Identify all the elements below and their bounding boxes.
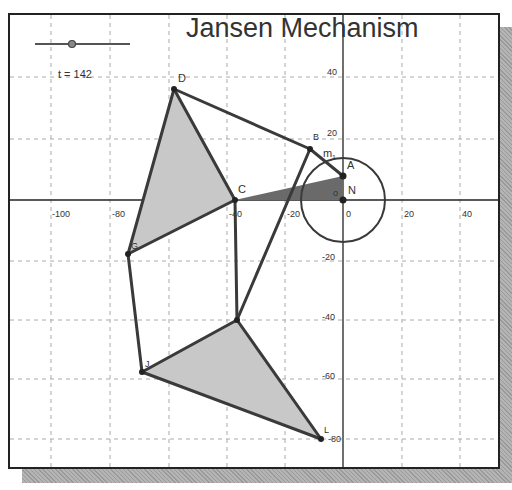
- svg-text:-80: -80: [328, 434, 341, 444]
- mechanism-canvas[interactable]: -100 -80 -60 -40 -20 0 20 40 40 20 -20 -…: [10, 15, 498, 467]
- svg-text:C: C: [238, 183, 246, 195]
- svg-text:-20: -20: [287, 209, 300, 219]
- svg-text:20: 20: [404, 209, 414, 219]
- slider-handle[interactable]: [69, 41, 76, 48]
- point-g[interactable]: [125, 251, 131, 257]
- svg-text:-60: -60: [322, 371, 335, 381]
- point-l[interactable]: [318, 436, 324, 442]
- point-c[interactable]: [232, 197, 238, 203]
- graphics-view[interactable]: -100 -80 -60 -40 -20 0 20 40 40 20 -20 -…: [8, 13, 500, 469]
- svg-text:G: G: [131, 241, 138, 251]
- svg-text:L: L: [324, 425, 329, 435]
- point-d[interactable]: [171, 86, 177, 92]
- svg-text:0: 0: [346, 209, 351, 219]
- t-slider[interactable]: [35, 41, 130, 48]
- point-a[interactable]: [340, 173, 347, 180]
- svg-text:N: N: [348, 184, 356, 196]
- svg-text:20: 20: [327, 128, 337, 138]
- svg-text:-40: -40: [322, 312, 335, 322]
- diagram-title: Jansen Mechanism: [186, 13, 419, 44]
- svg-text:-100: -100: [52, 209, 70, 219]
- svg-text:o: o: [333, 188, 338, 198]
- point-n[interactable]: [340, 197, 347, 204]
- svg-text:-20: -20: [322, 252, 335, 262]
- svg-text:40: 40: [327, 67, 337, 77]
- point-b[interactable]: [307, 146, 313, 152]
- svg-text:1: 1: [332, 154, 336, 161]
- svg-text:m: m: [323, 147, 332, 159]
- svg-text:B: B: [313, 132, 319, 142]
- slider-value-label: t = 142: [58, 68, 92, 80]
- svg-text:A: A: [347, 159, 355, 171]
- point-k[interactable]: [234, 317, 240, 323]
- svg-text:J: J: [145, 359, 150, 369]
- svg-text:40: 40: [462, 209, 472, 219]
- svg-text:D: D: [178, 72, 186, 84]
- svg-text:-80: -80: [112, 209, 125, 219]
- point-j[interactable]: [139, 369, 145, 375]
